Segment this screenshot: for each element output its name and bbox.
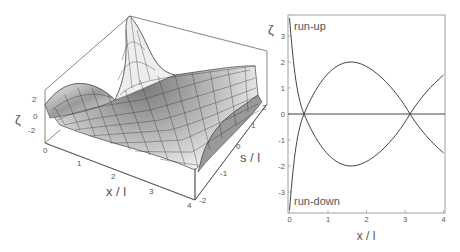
- x-tick: 3: [149, 187, 154, 196]
- y-tick: 1: [281, 84, 285, 93]
- surface-mesh: [45, 16, 262, 172]
- x-tick: 1: [77, 159, 82, 168]
- x-tick: 2: [364, 215, 368, 224]
- x-tick: 0: [43, 146, 48, 155]
- z-axis-label: ζ: [15, 112, 21, 127]
- x-tick: 2: [111, 172, 116, 181]
- surface-3d-plot: 2 0 -2 ζ 0 1 2 3 4 x / l -2 -1 0 1 2 s /…: [0, 0, 280, 252]
- x-tick: 0: [287, 215, 291, 224]
- x-tick: 4: [441, 215, 445, 224]
- x-tick: 1: [326, 215, 330, 224]
- x-tick: 4: [187, 201, 192, 210]
- y-tick: -1: [278, 136, 285, 145]
- z-axis: 2 0 -2 ζ: [15, 95, 38, 135]
- y-axis: 3 2 1 0 -1 -2 -3 ζ: [268, 22, 291, 197]
- y-tick: -2: [278, 162, 285, 171]
- run-down-curve: [290, 62, 444, 210]
- z-tick: -2: [28, 126, 36, 135]
- y-tick: 3: [281, 32, 285, 41]
- x-axis: 0 1 2 3 4 x / l: [287, 210, 445, 243]
- s-tick: -1: [220, 169, 228, 178]
- y-axis-label: ζ: [268, 22, 274, 37]
- curves: [288, 18, 445, 210]
- x-axis-label: x / l: [106, 184, 126, 199]
- run-up-label: run-up: [294, 20, 326, 32]
- s-tick: -2: [199, 196, 207, 205]
- z-tick: 0: [33, 112, 38, 121]
- run-down-label: run-down: [294, 195, 340, 207]
- run-up-curve: [290, 18, 444, 166]
- y-tick: -3: [278, 188, 285, 197]
- y-tick: 2: [281, 58, 285, 67]
- z-tick: 2: [32, 95, 37, 104]
- y-tick: 0: [281, 110, 285, 119]
- x-axis-label: x / l: [357, 229, 376, 243]
- x-tick: 3: [403, 215, 407, 224]
- line-plot: 3 2 1 0 -1 -2 -3 ζ 0 1 2 3 4 x / l run-u…: [250, 0, 460, 252]
